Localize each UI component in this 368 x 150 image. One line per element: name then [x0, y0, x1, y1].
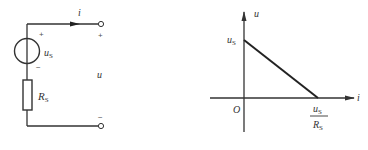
- svg-text:uS: uS: [313, 103, 322, 116]
- y-axis-label: u: [254, 8, 259, 19]
- source-minus-sign: −: [36, 63, 41, 72]
- uv-graph: u i O uS uS RS: [210, 8, 360, 132]
- resistor-label: RS: [37, 90, 49, 104]
- origin-label: O: [233, 104, 240, 115]
- terminal-minus-sign: −: [98, 113, 103, 122]
- source-plus-sign: +: [39, 30, 44, 39]
- x-axis-label: i: [357, 92, 360, 103]
- circuit: i + − uS RS + − u: [15, 7, 104, 129]
- current-arrow-icon: [70, 22, 80, 27]
- source-label: uS: [44, 47, 53, 60]
- y-intercept-label: uS: [227, 34, 236, 47]
- resistor-icon: [23, 80, 32, 110]
- terminal-bottom: [98, 123, 103, 128]
- svg-text:RS: RS: [312, 119, 323, 132]
- current-label: i: [78, 7, 81, 18]
- diagram-canvas: i + − uS RS + − u: [0, 0, 368, 150]
- terminal-top: [98, 21, 103, 26]
- terminal-plus-sign: +: [98, 31, 103, 40]
- output-voltage-label: u: [97, 69, 102, 80]
- x-intercept-label: uS RS: [310, 103, 328, 132]
- characteristic-line: [244, 40, 318, 98]
